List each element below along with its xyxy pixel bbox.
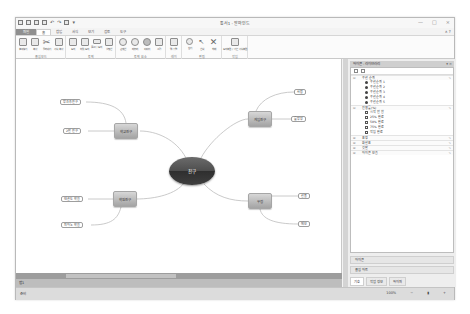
central-topic[interactable]: 친구 [169, 157, 215, 185]
main-topic-game-friends[interactable]: 게임친구 [248, 111, 272, 127]
priority-icon [365, 101, 368, 104]
reset-format-button[interactable]: 토픽 복원 / 기본 서식 복원 [228, 38, 242, 51]
zoom-in-button[interactable]: + [443, 291, 446, 295]
list-icon[interactable] [361, 69, 365, 73]
tab-symbols[interactable]: 기호 [350, 277, 364, 286]
subtopic[interactable]: 태권도 학원 [61, 196, 83, 202]
callout-button[interactable]: 설명선 [103, 38, 114, 51]
status-text: 준비 [20, 291, 26, 296]
zoom-level[interactable]: 100% [386, 291, 396, 295]
magnifier-icon [186, 38, 193, 45]
edit-icon[interactable]: ✎ [448, 151, 451, 156]
status-bar: 준비 100% − ▮ + [16, 287, 454, 300]
group-layout: 맵 정렬 레이 [166, 36, 182, 60]
mindmap-canvas[interactable]: 친구 학교친구 방과후친구 2반 친구 게임친구 사람 롤방장 학원친구 태권도… [16, 59, 342, 287]
zoom-controls: 100% − ▮ + [386, 291, 446, 295]
main-topic-friendship[interactable]: 우정 [248, 193, 272, 209]
subtopic[interactable]: 2반 친구 [63, 128, 81, 134]
maximize-button[interactable]: □ [432, 19, 437, 25]
copy-icon [31, 38, 39, 46]
select-button[interactable]: ↖선택 [196, 38, 207, 51]
subtopic-icon [81, 38, 89, 46]
main-topic-academy-friends[interactable]: 학원친구 [113, 191, 137, 207]
scissors-icon: ✂ [43, 38, 51, 46]
ribbon-help[interactable]: ∧ ? [445, 29, 451, 34]
panel-scrollbar[interactable] [343, 59, 348, 287]
icon-tree: ⊟우선 순위✎ 우선순위 1 우선순위 2 우선순위 3 우선순위 4 우선순위… [350, 67, 454, 253]
title-bar: ↶ ↷ ▾ 통서1 - 알마인드 — □ × [16, 18, 454, 28]
picture-button[interactable]: 그림 [153, 38, 164, 51]
tab-task-info[interactable]: 작업 정보 [366, 277, 387, 286]
copy-button[interactable]: 복사 [29, 38, 40, 51]
panel-bottom-tabs: 기호 작업 정보 하이퍼 [350, 277, 454, 286]
main-topic-school-friends[interactable]: 학교친구 [114, 123, 138, 139]
sheet-tab[interactable]: 맵1 [19, 281, 24, 285]
subtopic[interactable]: 롤방장 [291, 116, 306, 122]
panel-title: 아이콘 - 라이브러리 [353, 62, 381, 66]
window-controls: — □ × [418, 19, 450, 25]
delete-x-icon: ✕ [210, 38, 218, 46]
group-topic: 토픽 하위 토픽 플로팅 토픽 설명선 토픽 [66, 36, 116, 60]
panel-toolbar [351, 68, 453, 75]
floating-topic-button[interactable]: 플로팅 토픽 [91, 38, 102, 49]
group-task: 토픽 복원 / 기본 서식 복원 작업 [222, 36, 248, 60]
callout-icon [105, 38, 113, 46]
subtopic[interactable]: 방과후친구 [60, 99, 81, 105]
group-clipboard: 붙여넣기 복사 ✂잘라내기 서식 복사 클립보드 [16, 36, 66, 60]
zoom-out-button[interactable]: − [410, 291, 413, 295]
tab-hyperlink[interactable]: 하이퍼 [389, 277, 406, 286]
format-painter-button[interactable]: 서식 복사 [53, 38, 64, 51]
priority-icon [365, 86, 368, 89]
group-topic-elements: 관계선 테두리 이미지 그림 토픽 요소 [116, 36, 166, 60]
cursor-icon: ↖ [198, 38, 206, 46]
subtopic[interactable]: 선물 [298, 193, 310, 199]
progress-25-icon [365, 116, 368, 119]
delete-button[interactable]: ✕삭제 [208, 38, 219, 51]
sheet-tab-bar: 맵1 [16, 279, 342, 287]
priority-icon [365, 81, 368, 84]
priority-icon [365, 96, 368, 99]
group-edit: 찾기 ↖선택 ✕삭제 편집 [182, 36, 222, 60]
progress-75-icon [365, 126, 368, 129]
progress-done-icon [365, 131, 368, 134]
boundary-icon [131, 38, 139, 46]
brush-icon [55, 38, 63, 46]
close-icon[interactable] [368, 69, 372, 73]
subtopic[interactable]: 사람 [294, 89, 306, 95]
topic-button[interactable]: 토픽 [67, 38, 78, 51]
cut-button[interactable]: ✂잘라내기 [41, 38, 52, 51]
progress-0-icon [365, 111, 368, 114]
subtopic-button[interactable]: 하위 토픽 [79, 38, 90, 51]
paste-icon [19, 38, 27, 46]
find-button[interactable]: 찾기 [184, 38, 195, 50]
minimize-button[interactable]: — [418, 19, 423, 25]
ribbon: 붙여넣기 복사 ✂잘라내기 서식 복사 클립보드 토픽 하위 토픽 플로팅 토픽… [16, 35, 454, 59]
panel-section-clipart[interactable]: 클립 아트 [350, 266, 454, 274]
category-icon-set[interactable]: ⊞아이콘 모음✎ [351, 150, 453, 155]
relationship-icon [119, 38, 127, 46]
scrollbar-thumb[interactable] [66, 274, 176, 278]
arrange-icon [170, 38, 178, 46]
icon-library-panel: 아이콘 - 라이브러리 ▾ × ⊟우선 순위✎ 우선순위 1 우선순위 2 우선… [343, 59, 456, 287]
panel-section-icons[interactable]: 아이콘 [350, 256, 454, 264]
image-icon [143, 38, 151, 46]
paste-button[interactable]: 붙여넣기 [17, 38, 28, 51]
relationship-button[interactable]: 관계선 [117, 38, 128, 51]
picture-icon [155, 38, 163, 46]
arrange-map-button[interactable]: 맵 정렬 [168, 38, 179, 51]
view-icon[interactable] [354, 69, 358, 73]
zoom-slider[interactable]: ▮ [427, 291, 429, 295]
reset-format-icon [231, 38, 239, 46]
floating-topic-icon [93, 39, 101, 44]
app-window: ↶ ↷ ▾ 통서1 - 알마인드 — □ × 파일 홈 삽입 서식 보기 검토 … [15, 17, 455, 300]
icon-button[interactable]: 이미지 [141, 38, 152, 51]
priority-icon [365, 91, 368, 94]
ribbon-tabs: 파일 홈 삽입 서식 보기 검토 도구 [16, 28, 454, 35]
subtopic[interactable]: 피아노 학원 [61, 222, 83, 228]
topic-icon [69, 38, 77, 46]
expand-icon[interactable]: ⊞ [353, 151, 356, 156]
window-title: 통서1 - 알마인드 [16, 20, 454, 26]
boundary-button[interactable]: 테두리 [129, 38, 140, 51]
subtopic[interactable]: 메모 [298, 221, 310, 227]
close-button[interactable]: × [446, 19, 450, 25]
